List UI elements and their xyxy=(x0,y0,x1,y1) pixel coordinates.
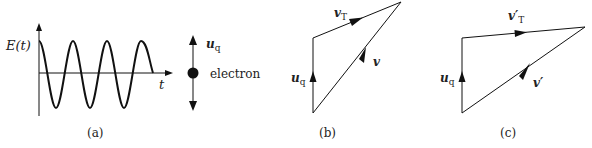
y-axis-arrow-icon xyxy=(36,23,42,31)
uq-label-c: uq xyxy=(440,71,455,87)
electron-label: electron xyxy=(210,67,261,81)
vT-arrow-icon xyxy=(349,18,363,27)
vector-v-prime xyxy=(462,27,585,113)
uq-label-b: uq xyxy=(291,71,306,87)
field-waveform xyxy=(39,41,153,108)
up-arrow-icon xyxy=(189,35,197,45)
x-axis-label: t xyxy=(159,77,165,92)
v-prime-label: v′ xyxy=(533,76,544,90)
panel-c: v′T v′ uq (c) xyxy=(440,9,585,140)
vT-prime-arrow-icon xyxy=(515,30,528,37)
vT-prime-label: v′T xyxy=(508,9,524,25)
v-label: v xyxy=(373,55,381,69)
vT-label: vT xyxy=(334,6,347,22)
uq-arrow-icon xyxy=(459,71,466,82)
v-arrow-icon xyxy=(359,47,366,63)
caption-a: (a) xyxy=(87,126,104,140)
panel-b: vT v uq (b) xyxy=(291,2,401,140)
panel-a: E(t) t uq electron (a) xyxy=(5,23,261,140)
uq-label-a: uq xyxy=(206,37,221,53)
caption-c: (c) xyxy=(500,126,516,140)
down-arrow-icon xyxy=(189,101,197,111)
y-axis-label: E(t) xyxy=(5,38,31,53)
x-axis-arrow-icon xyxy=(165,70,173,76)
uq-arrow-icon xyxy=(310,71,317,82)
electron-dot xyxy=(188,68,199,79)
caption-b: (b) xyxy=(319,126,336,140)
figure-canvas: E(t) t uq electron (a) vT v uq (b) v′T v… xyxy=(0,0,592,148)
